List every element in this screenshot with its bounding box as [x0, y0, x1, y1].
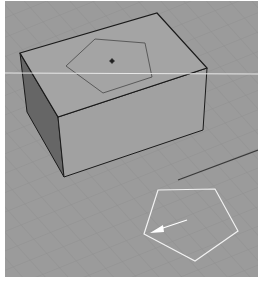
3d-viewport[interactable]: [5, 1, 258, 277]
viewport-canvas[interactable]: [5, 1, 258, 277]
